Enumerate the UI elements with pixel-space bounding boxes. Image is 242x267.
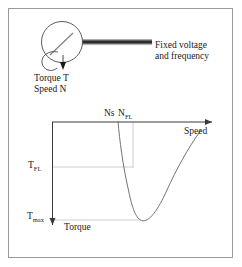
tick-label-tfl: TFL	[28, 160, 41, 172]
tick-label-ns: Ns	[104, 108, 115, 119]
motor-output-line-1: Torque T	[34, 73, 69, 84]
motor-output-note: Torque T Speed N	[34, 73, 69, 95]
figure-canvas: Fixed voltage and frequency Torque T Spe…	[0, 0, 242, 267]
tick-label-tfl-sub: FL	[34, 165, 42, 172]
tick-label-tmax: Tmax	[27, 211, 44, 223]
axis-label-speed: Speed	[184, 126, 207, 137]
motor-shaft-icon	[80, 40, 152, 45]
circle-with-diagonal-rotor-icon	[42, 22, 83, 63]
chart-guide-lines	[52, 122, 141, 220]
motor-output-line-2: Speed N	[34, 84, 69, 95]
supply-note-line-2: and frequency	[155, 51, 209, 62]
tick-label-nfl-base: N	[118, 108, 125, 118]
axis-label-torque: Torque	[64, 222, 91, 233]
tick-label-nfl-sub: FL	[125, 113, 133, 120]
tick-label-tmax-sub: max	[33, 216, 44, 223]
supply-note: Fixed voltage and frequency	[155, 40, 209, 62]
tick-label-nfl: NFL	[118, 108, 132, 120]
supply-note-line-1: Fixed voltage	[155, 40, 209, 51]
